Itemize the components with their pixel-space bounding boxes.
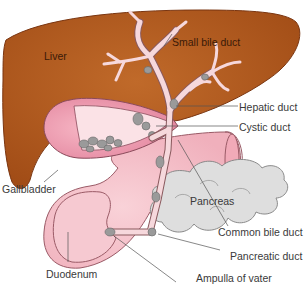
label-liver: Liver [44,50,67,62]
label-pancreatic-duct: Pancreatic duct [230,250,302,262]
label-cystic-duct: Cystic duct [239,121,290,133]
label-common-bile-duct: Common bile duct [218,226,303,238]
label-gallbladder: Gallbladder [2,183,56,195]
biliary-anatomy-illustration [0,0,306,290]
label-duodenum: Duodenum [46,268,97,280]
label-pancreas: Pancreas [190,195,234,207]
label-ampulla-of-vater: Ampulla of vater [196,272,272,284]
label-hepatic-duct: Hepatic duct [239,101,297,113]
label-small-bile-duct: Small bile duct [172,36,240,48]
